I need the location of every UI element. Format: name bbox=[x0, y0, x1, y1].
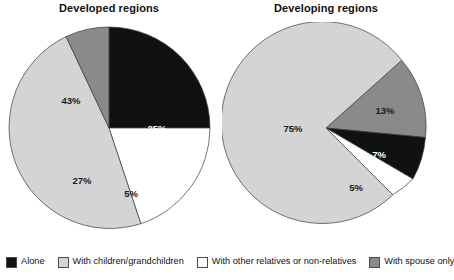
slice-developed-alone bbox=[109, 27, 210, 128]
slice-value-developed-spouse: 43% bbox=[61, 95, 81, 106]
panel-title-developed: Developed regions bbox=[0, 2, 218, 14]
slice-value-developed-children: 27% bbox=[72, 175, 92, 186]
slice-value-developing-alone: 7% bbox=[372, 149, 386, 160]
legend-swatch-other-relatives bbox=[197, 257, 208, 268]
legend-label-alone: Alone bbox=[21, 257, 45, 266]
slice-value-developed-other-relatives: 5% bbox=[124, 188, 138, 199]
legend-item-spouse: With spouse only bbox=[369, 257, 454, 268]
legend-label-children: With children/grandchildren bbox=[73, 257, 184, 266]
pie-developed-regions: 25% 5% 27% 43% bbox=[0, 22, 218, 234]
pie-developing-regions: 75% 13% 7% 5% bbox=[217, 22, 435, 234]
slice-value-developing-children: 75% bbox=[283, 123, 303, 134]
legend-label-other-relatives: With other relatives or non-relatives bbox=[212, 257, 357, 266]
legend-item-children: With children/grandchildren bbox=[58, 257, 184, 268]
legend-swatch-alone bbox=[6, 257, 17, 268]
legend-item-alone: Alone bbox=[6, 257, 45, 268]
legend-swatch-children bbox=[58, 257, 69, 268]
legend-swatch-spouse bbox=[369, 257, 380, 268]
chart-legend: Alone With children/grandchildren With o… bbox=[0, 252, 435, 272]
slice-value-developing-spouse: 13% bbox=[375, 105, 395, 116]
pie-developing-svg: 75% 13% 7% 5% bbox=[222, 22, 430, 234]
legend-item-other-relatives: With other relatives or non-relatives bbox=[197, 257, 357, 268]
slice-value-developing-other-relatives: 5% bbox=[349, 182, 363, 193]
slice-value-developed-alone: 25% bbox=[147, 123, 167, 134]
pie-developed-svg: 25% 5% 27% 43% bbox=[5, 22, 213, 234]
legend-label-spouse: With spouse only bbox=[384, 257, 454, 266]
panel-title-developing: Developing regions bbox=[217, 2, 435, 14]
